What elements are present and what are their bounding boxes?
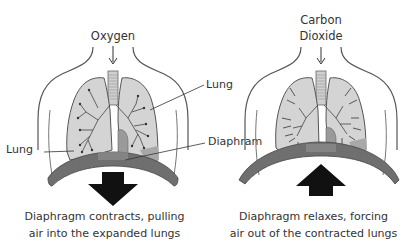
inhalation-panel: Oxygen Lung Diaphragm contracts, pulling… (0, 0, 209, 250)
callout-line-lung-right (150, 85, 204, 110)
inhalation-caption: Diaphragm contracts, pulling air into th… (0, 208, 209, 242)
exhalation-panel: Carbon Dioxide Diaphragm relaxes, forcin… (209, 0, 418, 250)
oxygen-label-line: Oxygen (75, 28, 151, 44)
exhalation-caption-line-1: Diaphragm relaxes, forcing (209, 208, 418, 225)
inhalation-caption-line-2: air into the expanded lungs (0, 225, 209, 242)
carbon-dioxide-label: Carbon Dioxide (281, 12, 361, 44)
left-lung (276, 78, 319, 152)
trachea (108, 71, 118, 105)
carbon-dioxide-label-line-1: Carbon (281, 12, 361, 28)
up-arrow-icon (296, 164, 346, 196)
lung-left-callout: Lung (6, 143, 33, 156)
oxygen-label: Oxygen (75, 28, 151, 44)
trachea (316, 71, 326, 105)
exhalation-caption-line-2: air out of the contracted lungs (209, 225, 418, 242)
exhalation-caption: Diaphragm relaxes, forcing air out of th… (209, 208, 418, 242)
inhalation-caption-line-1: Diaphragm contracts, pulling (0, 208, 209, 225)
carbon-dioxide-label-line-2: Dioxide (281, 28, 361, 44)
down-arrow-icon (88, 172, 138, 206)
